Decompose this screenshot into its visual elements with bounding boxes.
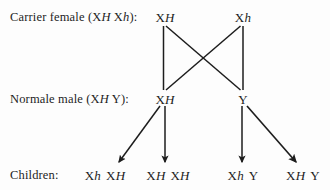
child-Xh-Y-a-x: X: [228, 168, 238, 183]
child-XH-Y-a-x: X: [286, 168, 296, 183]
child-Xh-XH-a-gene: h: [94, 168, 101, 183]
female-gamete-XH-gene: H: [165, 10, 175, 25]
male-gamete-Y-x: Y: [238, 92, 248, 107]
child-XH-XH-a-gene: H: [156, 168, 166, 183]
child-XH-Y-b-x: Y: [310, 168, 320, 183]
label-normal-male-allele1: H: [100, 92, 109, 106]
child-Xh-Y-b-x: Y: [249, 168, 259, 183]
arrow-male-Y-to-child-XH-Y: [247, 106, 296, 162]
male-gamete-XH: XH: [155, 92, 174, 108]
label-normal-male-suffix: ):: [121, 92, 129, 106]
label-normal-male-middle: Y: [109, 92, 121, 106]
child-XH-XH-a-x: X: [146, 168, 156, 183]
male-gamete-XH-gene: H: [165, 92, 175, 107]
child-Xh-Y-a-gene: h: [237, 168, 244, 183]
female-gamete-XH-x: X: [155, 10, 165, 25]
genetics-cross-diagram: Carrier female (XH Xh): XH Xh Normale ma…: [0, 0, 330, 190]
female-gamete-Xh-gene: h: [244, 10, 251, 25]
female-gamete-Xh-x: X: [235, 10, 245, 25]
male-gamete-Y: Y: [238, 92, 248, 108]
label-normal-male: Normale male (XH Y):: [10, 92, 129, 107]
label-normal-male-prefix: Normale male (X: [10, 92, 100, 106]
child-Xh-XH-b-gene: H: [116, 168, 126, 183]
label-children-text: Children:: [10, 168, 59, 182]
child-XH-XH: XHXH: [146, 168, 189, 184]
label-carrier-female: Carrier female (XH Xh):: [10, 10, 137, 25]
child-XH-Y-a-gene: H: [296, 168, 306, 183]
label-carrier-female-suffix: ):: [129, 10, 137, 24]
child-Xh-XH-b-x: X: [106, 168, 116, 183]
female-gamete-XH: XH: [155, 10, 174, 26]
label-carrier-female-prefix: Carrier female (X: [10, 10, 101, 24]
label-carrier-female-middle: X: [111, 10, 123, 24]
arrow-male-XH-to-child-Xh-XH: [119, 106, 160, 162]
child-XH-XH-b-x: X: [171, 168, 181, 183]
child-Xh-XH-a-x: X: [85, 168, 95, 183]
child-Xh-Y: XhY: [228, 168, 259, 184]
child-XH-Y: XHY: [286, 168, 320, 184]
male-gamete-XH-x: X: [155, 92, 165, 107]
label-children: Children:: [10, 168, 59, 183]
female-gamete-Xh: Xh: [235, 10, 251, 26]
child-Xh-XH: XhXH: [85, 168, 125, 184]
child-XH-XH-b-gene: H: [180, 168, 190, 183]
label-carrier-female-allele1: H: [101, 10, 110, 24]
